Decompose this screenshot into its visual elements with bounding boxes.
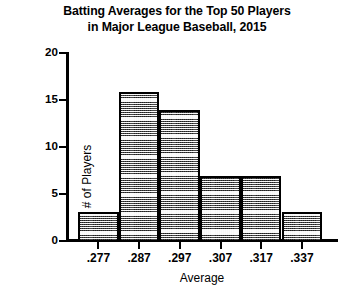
- x-tick-3: [220, 242, 222, 249]
- y-tick-5: [59, 193, 66, 195]
- bar-2: [159, 110, 200, 242]
- chart-title-line-2: in Major League Baseball, 2015: [0, 20, 354, 36]
- y-tick-10: [59, 146, 66, 148]
- x-tick-4: [260, 242, 262, 249]
- x-tick-1: [138, 242, 140, 249]
- x-tick-2: [179, 242, 181, 249]
- x-axis-title: Average: [66, 272, 338, 285]
- x-tick-0: [97, 242, 99, 249]
- y-tick-label-20: 20: [28, 46, 58, 57]
- chart-title: Batting Averages for the Top 50 Players …: [0, 4, 354, 35]
- y-tick-label-10: 10: [28, 140, 58, 151]
- bar-1: [119, 92, 160, 242]
- y-tick-label-0: 0: [28, 234, 58, 245]
- y-tick-label-5: 5: [28, 187, 58, 198]
- chart-title-line-1: Batting Averages for the Top 50 Players: [0, 4, 354, 20]
- bar-5: [282, 212, 323, 242]
- y-axis-line: [66, 52, 69, 242]
- histogram-figure: Batting Averages for the Top 50 Players …: [0, 0, 354, 297]
- plot-area: 20 15 10 5 0 .277 .287 .297 .307 .317 .3…: [66, 52, 338, 240]
- y-tick-15: [59, 99, 66, 101]
- y-tick-0: [59, 240, 66, 242]
- x-tick-label-5: .337: [277, 252, 327, 264]
- bar-3: [200, 176, 241, 242]
- x-tick-5: [301, 242, 303, 249]
- y-axis-title: # of Players: [81, 122, 94, 232]
- y-tick-label-15: 15: [28, 93, 58, 104]
- bar-4: [241, 176, 282, 242]
- y-tick-20: [59, 52, 66, 54]
